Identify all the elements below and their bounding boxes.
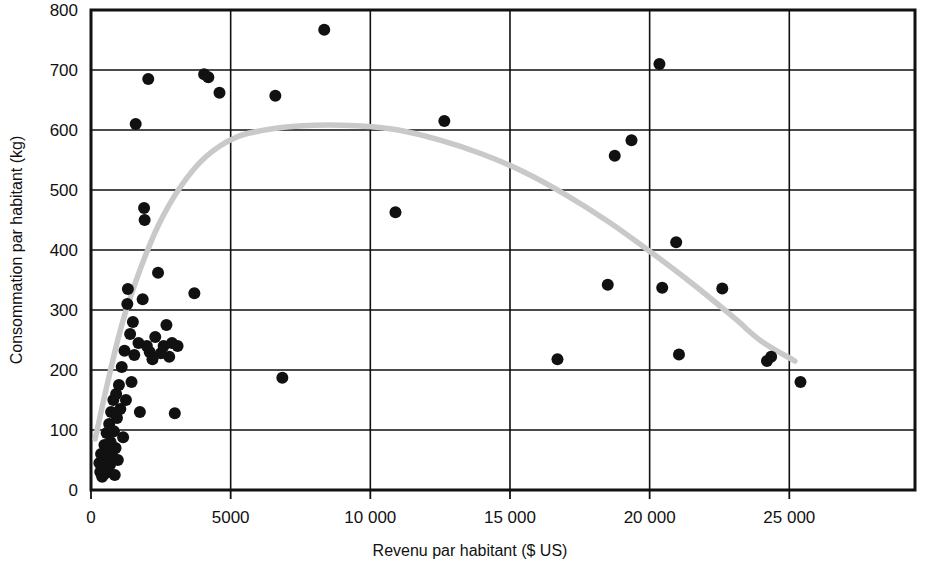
data-point [551,353,563,365]
data-point [117,431,129,443]
data-point [149,331,161,343]
data-point [318,24,330,36]
x-tick-label: 5000 [212,508,250,527]
y-tick-label: 0 [69,481,78,500]
y-tick-label: 800 [50,1,78,20]
y-tick-label: 600 [50,121,78,140]
gridlines [91,10,915,490]
data-point [188,287,200,299]
data-point [142,73,154,85]
data-point [172,340,184,352]
data-point [110,442,122,454]
y-tick-label: 200 [50,361,78,380]
data-point [765,351,777,363]
y-axis-title: Consommation par habitant (kg) [8,136,25,365]
data-point [152,267,164,279]
data-point [163,351,175,363]
data-point [160,319,172,331]
data-point [794,376,806,388]
chart-svg: 0100200300400500600700800 0500010 00015 … [0,0,928,573]
data-point [716,282,728,294]
data-points [93,24,806,483]
data-point [213,87,225,99]
data-point [202,71,214,83]
x-tick-label: 0 [86,508,95,527]
data-point [609,150,621,162]
data-point [673,348,685,360]
data-point [169,407,181,419]
y-tick-labels: 0100200300400500600700800 [50,1,78,500]
x-tick-labels: 0500010 00015 00020 00025 000 [86,508,815,527]
trendline [95,125,795,439]
data-point [113,379,125,391]
y-tick-label: 400 [50,241,78,260]
data-point [116,361,128,373]
data-point [625,134,637,146]
data-point [438,115,450,127]
data-point [389,206,401,218]
y-tick-label: 700 [50,61,78,80]
x-axis-title: Revenu par habitant ($ US) [373,542,568,559]
data-point [109,469,121,481]
data-point [656,282,668,294]
data-point [139,214,151,226]
x-tick-label: 25 000 [763,508,815,527]
data-point [127,316,139,328]
data-point [137,293,149,305]
x-tick-label: 10 000 [344,508,396,527]
data-point [653,58,665,70]
data-point [670,236,682,248]
data-point [128,349,140,361]
data-point [130,118,142,130]
data-point [276,372,288,384]
data-point [120,394,132,406]
x-tick-label: 20 000 [624,508,676,527]
scatter-chart: 0100200300400500600700800 0500010 00015 … [0,0,928,573]
data-point [112,454,124,466]
y-tick-label: 500 [50,181,78,200]
data-point [269,90,281,102]
x-tick-label: 15 000 [484,508,536,527]
data-point [122,283,134,295]
data-point [138,202,150,214]
data-point [121,298,133,310]
y-tick-label: 300 [50,301,78,320]
data-point [126,376,138,388]
data-point [124,328,136,340]
y-tick-label: 100 [50,421,78,440]
data-point [602,279,614,291]
data-point [134,406,146,418]
